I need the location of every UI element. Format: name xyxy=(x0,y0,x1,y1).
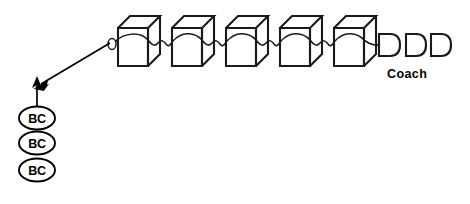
bc-badge: BC xyxy=(19,132,55,155)
car-top-face xyxy=(226,16,268,28)
coach-car xyxy=(431,34,451,56)
coach-group xyxy=(379,34,451,56)
car-top-face xyxy=(334,16,376,28)
train-car xyxy=(172,16,214,66)
train-diagram-canvas: Coach BC BC BC xyxy=(0,0,470,204)
coach-car xyxy=(379,34,400,56)
train-car-group xyxy=(118,16,376,66)
train-car xyxy=(118,16,160,66)
car-top-face xyxy=(118,16,160,28)
bc-badge: BC xyxy=(19,107,55,130)
badge-group: BC BC BC xyxy=(19,107,55,182)
coach-car xyxy=(406,34,426,56)
train-car xyxy=(226,16,268,66)
coach-label: Coach xyxy=(387,67,427,81)
train-car xyxy=(280,16,322,66)
car-top-face xyxy=(172,16,214,28)
badge-label: BC xyxy=(28,112,46,126)
car-top-face xyxy=(280,16,322,28)
badge-label: BC xyxy=(28,137,46,151)
train-car xyxy=(334,16,376,66)
badge-label: BC xyxy=(28,164,46,178)
annotation-arrow-group xyxy=(32,43,110,110)
bc-badge: BC xyxy=(19,159,55,182)
train-diagram-svg: Coach BC BC BC xyxy=(0,0,470,204)
pointer-arrow-shaft xyxy=(41,43,110,84)
